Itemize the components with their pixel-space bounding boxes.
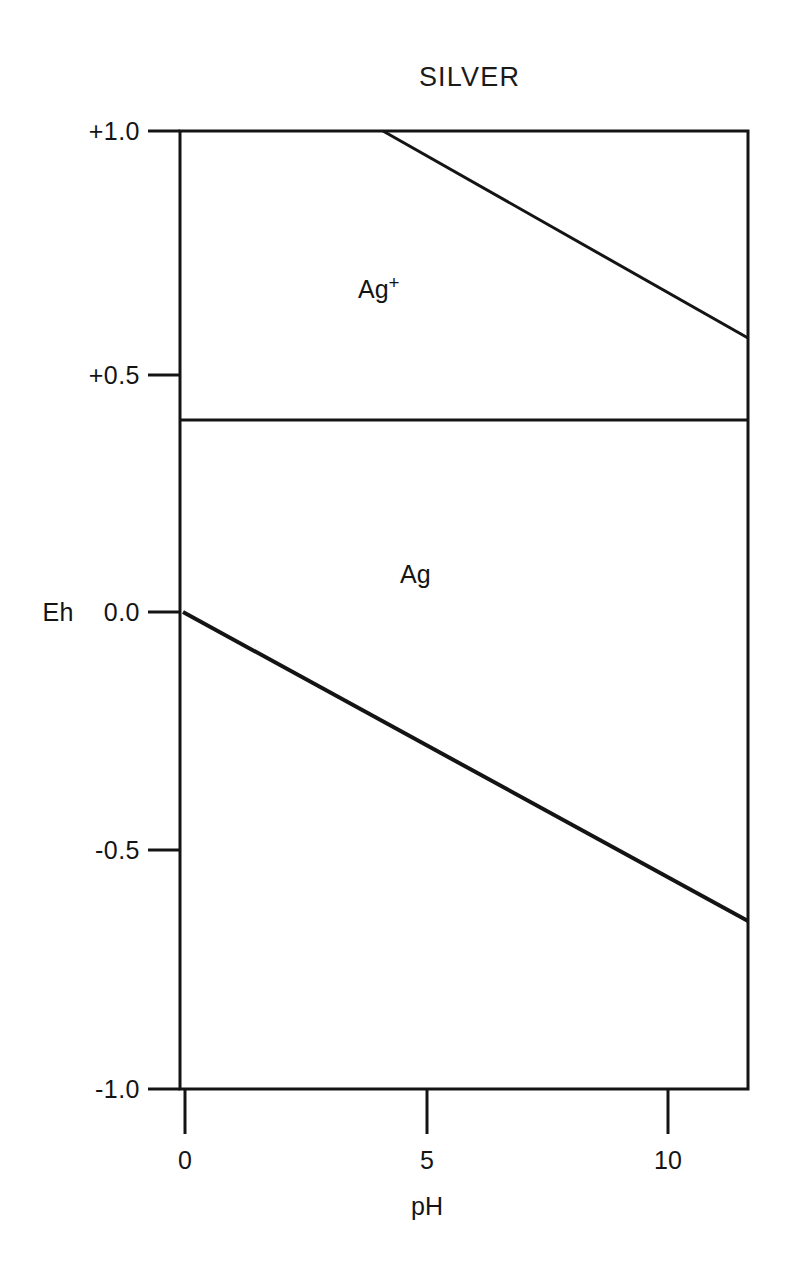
region-label-ag-plus-base: Ag — [358, 275, 389, 303]
y-axis-title: Eh — [0, 598, 74, 627]
x-axis-title: pH — [387, 1192, 467, 1221]
x-tick-label-10: 10 — [628, 1146, 708, 1175]
region-label-ag: Ag — [400, 560, 431, 589]
region-label-ag-plus-superscript: + — [389, 272, 400, 293]
pourbaix-diagram-figure: SILVER +1.0 +0.5 0.0 -0.5 -1.0 Eh 0 5 10… — [0, 0, 789, 1279]
lower-water-stability-line — [183, 612, 748, 921]
upper-water-stability-line — [383, 131, 748, 338]
y-tick-label--0.5: -0.5 — [40, 836, 140, 865]
region-label-ag-plus: Ag+ — [358, 275, 400, 304]
x-tick-label-0: 0 — [145, 1146, 225, 1175]
x-tick-label-5: 5 — [387, 1146, 467, 1175]
y-tick-label--1.0: -1.0 — [40, 1075, 140, 1104]
y-tick-label-1.0: +1.0 — [40, 117, 140, 146]
plot-frame — [180, 131, 748, 1089]
y-tick-label-0.5: +0.5 — [40, 361, 140, 390]
